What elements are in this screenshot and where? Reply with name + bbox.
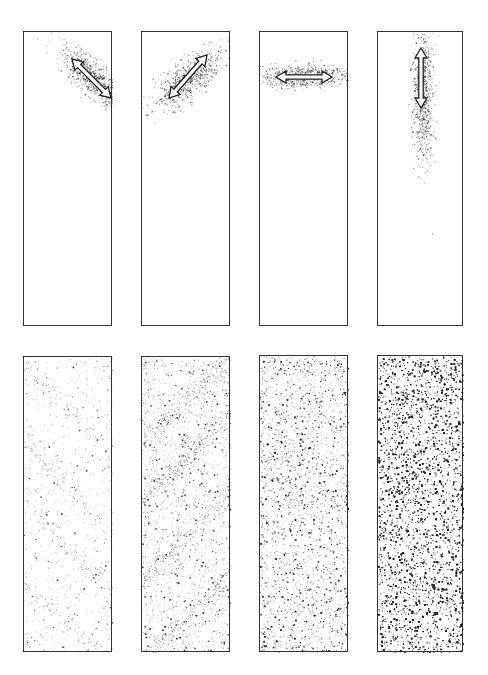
speckle-canvas [142, 32, 231, 327]
panel-bottom-3 [259, 355, 348, 652]
speckle-canvas [260, 356, 349, 653]
speckle-canvas [24, 32, 113, 327]
panel-bottom-2 [141, 356, 230, 652]
speckle-canvas [378, 32, 464, 327]
speckle-canvas [142, 357, 231, 653]
panel-top-1 [23, 31, 112, 326]
panel-top-3 [259, 31, 348, 326]
panel-bottom-4 [377, 355, 463, 652]
panel-top-4 [377, 31, 463, 326]
speckle-canvas [24, 357, 113, 653]
panel-top-2 [141, 31, 230, 326]
panel-bottom-1 [23, 356, 112, 652]
speckle-canvas [260, 32, 349, 327]
speckle-canvas [378, 356, 464, 653]
